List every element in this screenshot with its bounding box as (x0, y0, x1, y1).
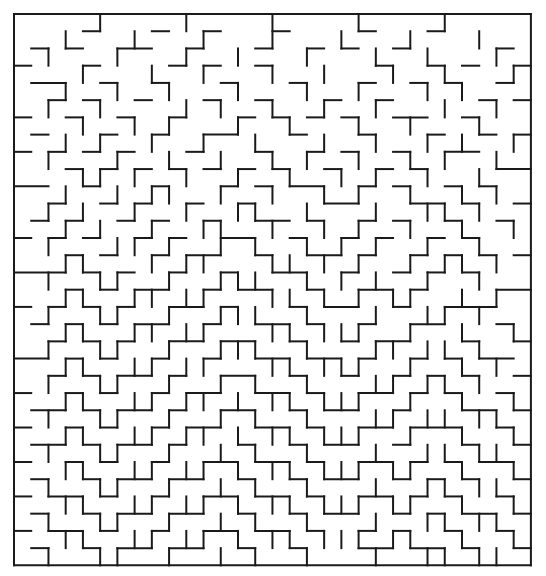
maze-graphic (0, 0, 546, 576)
maze-walls-group (14, 14, 531, 565)
maze-canvas (0, 0, 546, 576)
